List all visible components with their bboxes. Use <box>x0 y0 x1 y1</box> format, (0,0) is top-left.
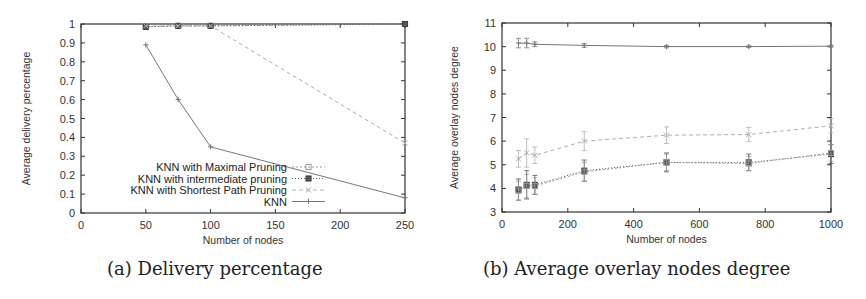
legend-label: KNN <box>264 196 287 208</box>
y-axis-label: Average overlay nodes degree <box>448 46 460 189</box>
x-tick-label: 200 <box>331 219 349 231</box>
y-tick-label: 0.2 <box>60 169 75 181</box>
series <box>143 23 407 145</box>
y-tick-label: 0.6 <box>60 94 75 106</box>
legend: KNN with Maximal PruningKNN with interme… <box>130 161 325 208</box>
caption-b: (b) Average overlay nodes degree <box>483 258 790 279</box>
y-tick-label: 3 <box>490 206 496 218</box>
x-tick-label: 0 <box>78 219 84 231</box>
legend-label: KNN with Maximal Pruning <box>156 161 287 173</box>
y-tick-label: 0 <box>69 207 75 219</box>
legend-label: KNN with intermediate pruning <box>138 173 287 185</box>
chart-a: 05010015020025000.10.20.30.40.50.60.70.8… <box>20 18 414 246</box>
y-tick-label: 4 <box>490 182 496 194</box>
y-tick-label: 7 <box>490 112 496 124</box>
y-tick-label: 10 <box>484 41 496 53</box>
x-axis-label: Number of nodes <box>203 234 284 246</box>
y-tick-label: 9 <box>490 64 496 76</box>
x-tick-label: 1000 <box>819 218 843 230</box>
x-tick-label: 50 <box>140 219 152 231</box>
x-tick-label: 800 <box>756 218 774 230</box>
x-axis-label: Number of nodes <box>626 233 707 245</box>
y-tick-label: 5 <box>490 159 496 171</box>
figure-canvas: 05010015020025000.10.20.30.40.50.60.70.8… <box>0 0 866 299</box>
x-tick-label: 0 <box>499 218 505 230</box>
y-axis-label: Average delivery percentage <box>20 52 32 186</box>
y-tick-label: 8 <box>490 88 496 100</box>
x-tick-label: 200 <box>559 218 577 230</box>
series <box>516 119 834 167</box>
y-tick-label: 0.3 <box>60 150 75 162</box>
legend-label: KNN with Shortest Path Pruning <box>130 184 287 196</box>
series <box>516 145 834 201</box>
y-tick-label: 0.8 <box>60 56 75 68</box>
y-tick-label: 1 <box>69 18 75 30</box>
series <box>516 145 834 201</box>
chart-b: 0200400600800100034567891011Number of no… <box>448 17 843 245</box>
caption-a: (a) Delivery percentage <box>107 258 323 279</box>
x-tick-label: 250 <box>396 219 414 231</box>
plot-frame <box>502 23 831 212</box>
y-tick-label: 0.5 <box>60 113 75 125</box>
y-tick-label: 0.4 <box>60 131 75 143</box>
y-tick-label: 0.1 <box>60 188 75 200</box>
series <box>516 38 834 49</box>
x-tick-label: 150 <box>266 219 284 231</box>
x-tick-label: 600 <box>690 218 708 230</box>
y-tick-label: 11 <box>485 17 496 29</box>
y-tick-label: 0.9 <box>60 37 75 49</box>
x-tick-label: 100 <box>201 219 219 231</box>
y-tick-label: 0.7 <box>60 75 75 87</box>
x-tick-label: 400 <box>624 218 642 230</box>
y-tick-label: 6 <box>490 135 496 147</box>
